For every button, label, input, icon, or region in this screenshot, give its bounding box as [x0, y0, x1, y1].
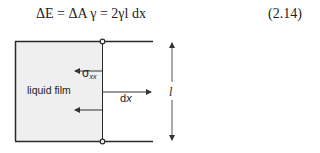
- stress-label: σxx: [82, 66, 96, 80]
- displacement-label: dx: [120, 92, 132, 104]
- bottom-junction-icon: [100, 139, 105, 144]
- film-diagram: [0, 0, 320, 153]
- liquid-film-label: liquid film: [27, 84, 71, 96]
- length-label: l: [168, 85, 173, 100]
- top-junction-icon: [100, 39, 105, 44]
- displacement-var: x: [126, 92, 132, 104]
- stress-subscript: xx: [89, 73, 96, 80]
